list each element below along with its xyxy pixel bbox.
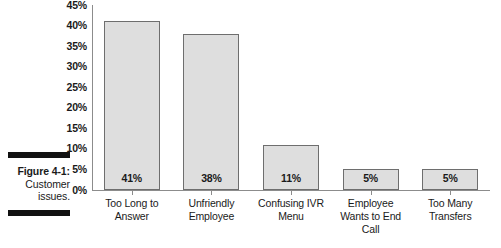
y-axis-tick-5: 5% bbox=[53, 164, 87, 175]
x-axis-tick bbox=[211, 191, 212, 195]
y-axis-tick-35: 35% bbox=[53, 41, 87, 52]
bar-value-label: 38% bbox=[184, 172, 238, 184]
category-label: EmployeeWants to EndCall bbox=[331, 197, 411, 236]
category-label-line: Too Long to bbox=[92, 197, 172, 210]
category-label-line: Menu bbox=[251, 210, 331, 223]
bar: 5% bbox=[422, 169, 478, 190]
y-axis-tick-30: 30% bbox=[53, 61, 87, 72]
y-axis-tick-45: 45% bbox=[53, 0, 87, 11]
category-label-line: Too Many bbox=[410, 197, 490, 210]
y-axis-line bbox=[92, 5, 93, 191]
category-label-line: Employee bbox=[331, 197, 411, 210]
category-label-line: Call bbox=[331, 223, 411, 236]
bar-value-label: 5% bbox=[344, 172, 398, 184]
y-axis-tick-25: 25% bbox=[53, 82, 87, 93]
y-axis-tick-15: 15% bbox=[53, 123, 87, 134]
bar-value-label: 5% bbox=[423, 172, 477, 184]
bar-value-label: 11% bbox=[264, 172, 318, 184]
x-axis-tick bbox=[132, 191, 133, 195]
y-axis-tick-10: 10% bbox=[53, 143, 87, 154]
category-label-line: Confusing IVR bbox=[251, 197, 331, 210]
figure-container: Figure 4-1: Customer issues. 45%40%35%30… bbox=[0, 0, 501, 248]
y-axis-tick-0: 0% bbox=[53, 185, 87, 196]
x-axis-tick bbox=[291, 191, 292, 195]
category-label: Too Long toAnswer bbox=[92, 197, 172, 223]
category-label: Confusing IVRMenu bbox=[251, 197, 331, 223]
category-label-line: Transfers bbox=[410, 210, 490, 223]
bar: 38% bbox=[183, 34, 239, 190]
x-axis-tick bbox=[371, 191, 372, 195]
bar: 11% bbox=[263, 145, 319, 190]
y-axis-tick-40: 40% bbox=[53, 20, 87, 31]
category-label: Too ManyTransfers bbox=[410, 197, 490, 223]
category-label: UnfriendlyEmployee bbox=[172, 197, 252, 223]
y-axis-tick-20: 20% bbox=[53, 102, 87, 113]
bar: 5% bbox=[343, 169, 399, 190]
category-label-line: Unfriendly bbox=[172, 197, 252, 210]
category-label-line: Employee bbox=[172, 210, 252, 223]
bar-chart: 45%40%35%30%25%20%15%10%5%0% 41%38%11%5%… bbox=[0, 0, 501, 248]
bar: 41% bbox=[104, 21, 160, 190]
category-label-line: Wants to End bbox=[331, 210, 411, 223]
category-label-line: Answer bbox=[92, 210, 172, 223]
x-axis-tick bbox=[450, 191, 451, 195]
bar-value-label: 41% bbox=[105, 172, 159, 184]
